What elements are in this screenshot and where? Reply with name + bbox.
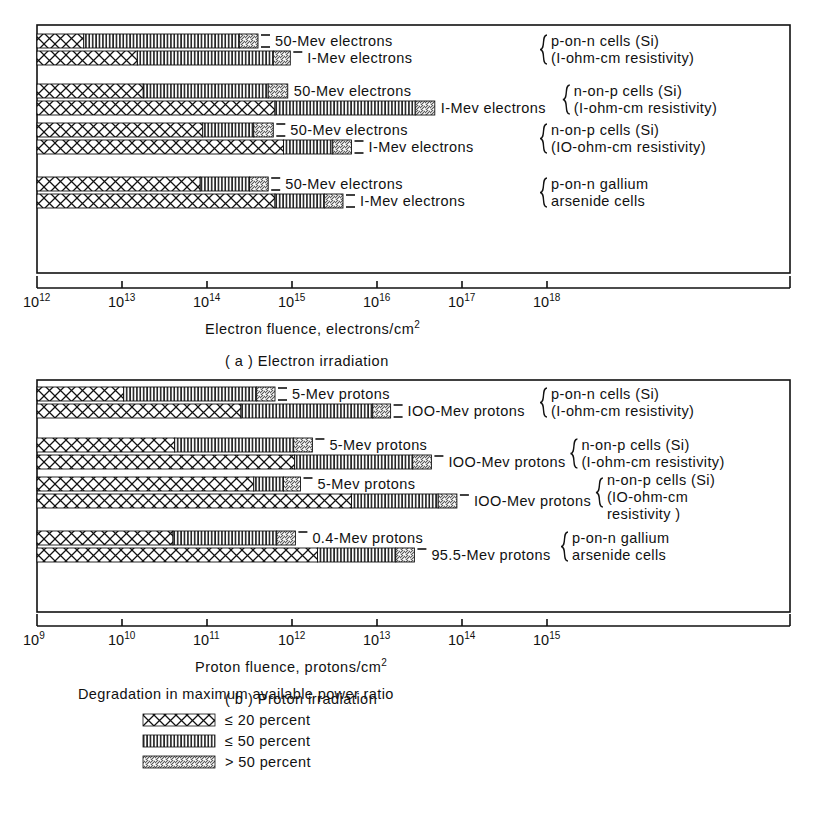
- group-annotation-line: resistivity ): [607, 506, 681, 522]
- group-annotation-line: n-on-p cells (Si): [581, 437, 689, 453]
- group-annotation-line: arsenide cells: [551, 193, 645, 209]
- bar-row: IOO-Mev protons: [37, 454, 566, 470]
- bar-segment-le20: [37, 477, 254, 491]
- bar-label: I-Mev electrons: [307, 50, 412, 66]
- axis-title-a: Electron fluence, electrons/cm2: [205, 319, 420, 337]
- bar-segment-le20: [37, 140, 284, 154]
- bar-segment-le20: [37, 34, 84, 48]
- bar-label: IOO-Mev protons: [408, 403, 525, 419]
- bar-segment-gt50: [268, 84, 288, 98]
- bar-segment-gt50: [254, 123, 274, 137]
- bar-segment-gt50: [396, 548, 415, 562]
- bar-row: IOO-Mev protons: [37, 403, 525, 419]
- bar-segment-le20: [37, 531, 173, 545]
- bar-label: IOO-Mev protons: [448, 454, 565, 470]
- bar-segment-gt50: [273, 51, 290, 65]
- group-annotation-line: arsenide cells: [572, 547, 666, 563]
- bar-segment-gt50: [250, 177, 269, 191]
- bar-segment-le50: [295, 455, 413, 469]
- bar-segment-le20: [37, 194, 275, 208]
- bar-segment-le50: [143, 84, 268, 98]
- bar-label: I-Mev electrons: [369, 139, 474, 155]
- bar-segment-gt50: [415, 101, 435, 115]
- bar-row: IOO-Mev protons: [37, 493, 591, 509]
- bar-segment-le50: [173, 531, 277, 545]
- legend-title: Degradation in maximum available power r…: [78, 686, 394, 702]
- bar-row: 50-Mev electrons: [37, 122, 408, 138]
- bar-label: 50-Mev electrons: [275, 33, 393, 49]
- bar-segment-gt50: [333, 140, 352, 154]
- panel-caption-a: ( a ) Electron irradiation: [225, 353, 389, 369]
- group-annotation-line: (I-ohm-cm resistivity): [574, 100, 717, 116]
- bar-segment-le20: [37, 177, 200, 191]
- bar-segment-le50: [275, 194, 324, 208]
- bar-segment-gt50: [438, 494, 457, 508]
- bar-segment-gt50: [324, 194, 343, 208]
- group-annotation-line: n-on-p cells (Si): [574, 83, 682, 99]
- legend-label-0: ≤ 20 percent: [225, 712, 310, 728]
- bar-row: 50-Mev electrons: [37, 176, 403, 192]
- bar-segment-gt50: [413, 455, 432, 469]
- bar-label: I-Mev electrons: [441, 100, 546, 116]
- bar-segment-le20: [37, 404, 241, 418]
- legend-swatch-vertical: [143, 735, 215, 747]
- bar-segment-le20: [37, 438, 175, 452]
- bar-label: I-Mev electrons: [360, 193, 465, 209]
- bar-segment-le50: [200, 177, 249, 191]
- bar-segment-le20: [37, 84, 143, 98]
- bar-segment-le50: [84, 34, 240, 48]
- bar-segment-gt50: [294, 438, 313, 452]
- bar-segment-le50: [275, 101, 415, 115]
- bar-row: 95.5-Mev protons: [37, 547, 551, 563]
- bar-segment-le20: [37, 548, 318, 562]
- bar-segment-le20: [37, 455, 295, 469]
- bar-row: 5-Mev protons: [37, 437, 427, 453]
- bar-segment-le50: [352, 494, 439, 508]
- bar-row: 0.4-Mev protons: [37, 530, 423, 546]
- bar-segment-le50: [254, 477, 284, 491]
- bar-segment-le20: [37, 494, 352, 508]
- legend-swatch-diagonal: [143, 756, 215, 768]
- group-annotation-line: p-on-n cells (Si): [551, 33, 659, 49]
- bar-segment-gt50: [239, 34, 258, 48]
- bar-segment-le50: [284, 140, 333, 154]
- legend-label-2: > 50 percent: [225, 754, 311, 770]
- legend-label-1: ≤ 50 percent: [225, 733, 310, 749]
- bar-label: 50-Mev electrons: [294, 83, 412, 99]
- bar-row: 50-Mev electrons: [37, 33, 393, 49]
- legend-swatch-crosshatch: [143, 714, 215, 726]
- group-annotation-line: (IO-ohm-cm resistivity): [551, 139, 706, 155]
- group-annotation-line: (I-ohm-cm resistivity): [551, 50, 694, 66]
- bar-segment-le50: [203, 123, 254, 137]
- bar-label: 0.4-Mev protons: [312, 530, 423, 546]
- bar-label: 5-Mev protons: [318, 476, 416, 492]
- bar-segment-le50: [241, 404, 373, 418]
- bar-segment-le50: [318, 548, 396, 562]
- group-annotation-line: p-on-n cells (Si): [551, 386, 659, 402]
- bar-row: I-Mev electrons: [37, 193, 465, 209]
- bar-segment-gt50: [284, 477, 301, 491]
- figure-root: 1012101310141015101610171018Electron flu…: [0, 0, 823, 827]
- bar-segment-le20: [37, 387, 124, 401]
- group-annotation-line: p-on-n gallium: [551, 176, 648, 192]
- bar-segment-le20: [37, 101, 275, 115]
- group-annotation-line: (I-ohm-cm resistivity): [551, 403, 694, 419]
- bar-label: 5-Mev protons: [292, 386, 390, 402]
- bar-label: IOO-Mev protons: [474, 493, 591, 509]
- group-annotation-line: n-on-p cells (Si): [551, 122, 659, 138]
- group-annotation-line: (IO-ohm-cm: [607, 489, 688, 505]
- bar-segment-gt50: [256, 387, 275, 401]
- bar-label: 5-Mev protons: [329, 437, 427, 453]
- bar-row: 50-Mev electrons: [37, 83, 411, 99]
- group-annotation-line: p-on-n gallium: [572, 530, 669, 546]
- bar-segment-le50: [124, 387, 257, 401]
- bar-label: 50-Mev electrons: [285, 176, 403, 192]
- bar-segment-le20: [37, 51, 137, 65]
- bar-segment-gt50: [373, 404, 391, 418]
- bar-label: 95.5-Mev protons: [431, 547, 550, 563]
- bar-segment-le20: [37, 123, 203, 137]
- bar-row: I-Mev electrons: [37, 139, 474, 155]
- bar-row: 5-Mev protons: [37, 386, 390, 402]
- axis-title-b: Proton fluence, protons/cm2: [195, 657, 387, 675]
- group-annotation-line: n-on-p cells (Si): [607, 472, 715, 488]
